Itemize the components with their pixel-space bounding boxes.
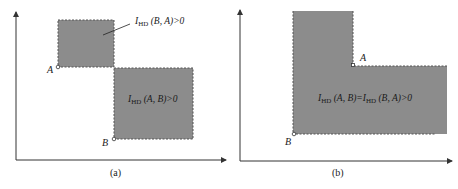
point-b-marker (112, 137, 116, 141)
point-a-marker-b (352, 64, 355, 67)
point-b-label: B (102, 137, 108, 148)
caption-b: (b) (332, 167, 344, 178)
region-hd-b-a (58, 20, 114, 67)
label-hd-equal: IHD (A, B)=IHD (B, A)>0 (318, 93, 412, 105)
point-b-marker-b (292, 132, 296, 136)
point-a-label: A (47, 64, 53, 75)
label-hd-a-b: IHD (A, B)>0 (128, 94, 178, 106)
point-a-label-b: A (360, 52, 366, 63)
label-hd-b-a: IHD (B, A)>0 (135, 16, 184, 28)
point-a-marker (56, 65, 60, 69)
caption-a: (a) (110, 167, 121, 178)
region-hd-equal (293, 11, 447, 134)
point-b-label-b: B (285, 136, 291, 147)
